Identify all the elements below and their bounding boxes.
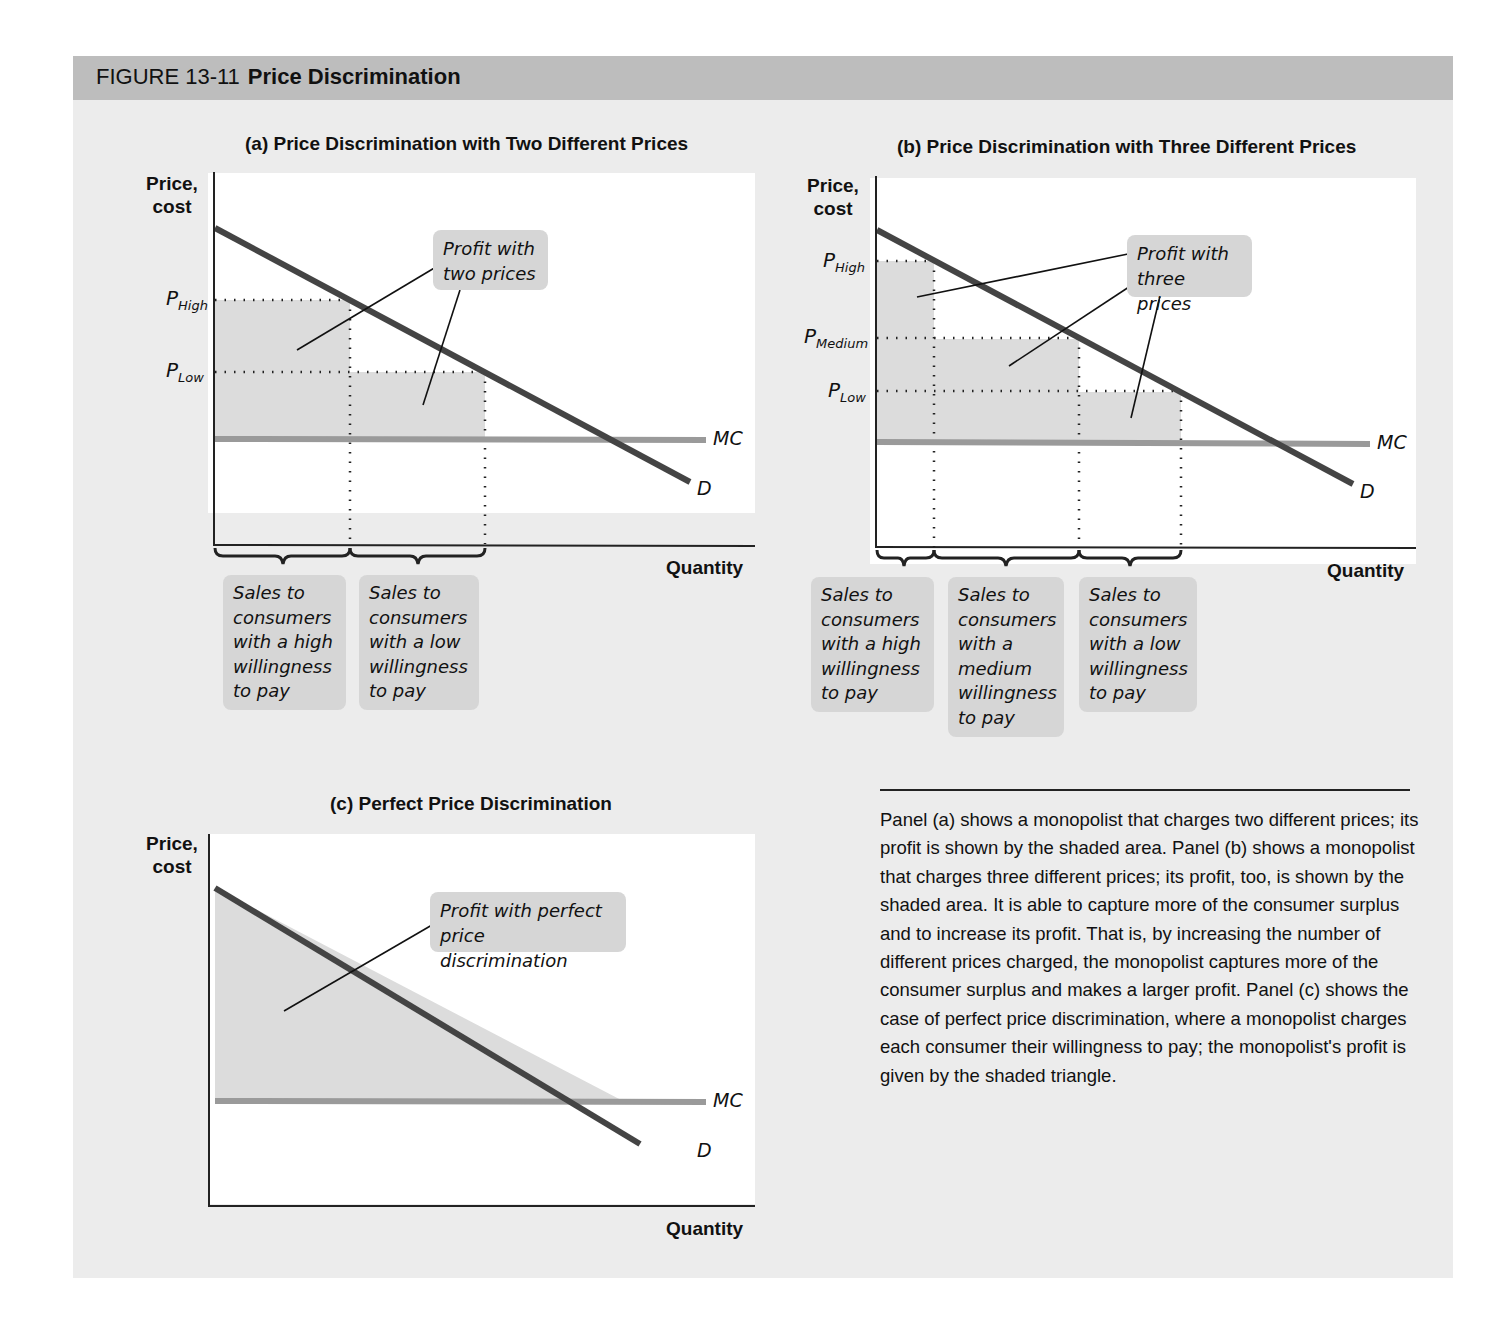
panel-c-d-label: D (697, 1139, 712, 1161)
panel-c-y-label: Price, cost (136, 832, 208, 878)
panel-c-x-label: Quantity (666, 1218, 743, 1240)
panel-c-y-label-line1: Price, (136, 832, 208, 855)
panel-c-y-label-line2: cost (136, 855, 208, 878)
figure-caption: Panel (a) shows a monopolist that charge… (880, 806, 1425, 1090)
caption-divider (880, 789, 1410, 791)
panel-c-chart (0, 0, 1510, 1333)
panel-c-mc-label: MC (713, 1089, 743, 1111)
panel-c-profit-callout: Profit with perfect price discrimination (430, 892, 626, 952)
panel-c-mc-line (215, 1101, 706, 1102)
